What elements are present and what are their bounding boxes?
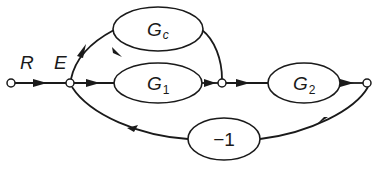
node-input <box>7 79 15 87</box>
block-feedback-label: −1 <box>213 129 235 150</box>
block-g2-subscript: 2 <box>309 83 316 97</box>
block-feedback: −1 <box>188 118 260 160</box>
node-error <box>66 79 74 87</box>
edge-gc-to-sum <box>202 30 222 79</box>
node-error-label: E <box>54 52 67 73</box>
node-input-label: R <box>20 52 34 73</box>
signal-flow-graph: Gc G1 G2 −1 R E <box>0 0 384 175</box>
arrow-g2-to-output-icon <box>340 79 354 87</box>
block-g1: G1 <box>114 63 202 103</box>
node-output <box>363 79 371 87</box>
arrow-gc-to-sum-icon <box>112 47 122 57</box>
block-g1-subscript: 1 <box>163 83 170 97</box>
arrow-sum-to-g2-icon <box>236 79 250 87</box>
edge-e-to-gc <box>71 30 114 79</box>
block-gc-subscript: c <box>163 28 169 42</box>
node-sum <box>218 79 226 87</box>
block-g1-label: G <box>147 73 162 94</box>
block-gc: Gc <box>113 7 203 51</box>
block-g2: G2 <box>268 63 340 103</box>
block-gc-label: G <box>147 19 162 40</box>
arrow-e-to-g1-icon <box>86 79 100 87</box>
arrow-r-to-e-icon <box>33 79 47 87</box>
arrow-g1-to-sum-icon <box>204 79 216 87</box>
block-g2-label: G <box>293 73 308 94</box>
